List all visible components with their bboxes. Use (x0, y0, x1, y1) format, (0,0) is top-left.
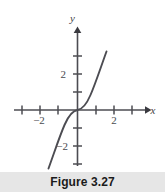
x-tick-label-minus2: −2 (33, 114, 45, 126)
y-tick-label-2: 2 (61, 68, 67, 80)
y-axis-label: y (69, 12, 75, 24)
y-tick-label-minus2: −2 (56, 140, 68, 152)
cubic-graph-plot: x y −2 2 2 −2 (0, 0, 165, 172)
graph-svg: x y −2 2 2 −2 (0, 0, 165, 172)
y-axis-arrow-icon (74, 27, 82, 34)
figure-caption-text: Figure 3.27 (50, 175, 114, 189)
figure-caption-bar: Figure 3.27 (0, 172, 165, 192)
x-axis-label: x (150, 104, 156, 116)
figure-container: x y −2 2 2 −2 Figure 3.27 (0, 0, 165, 192)
x-tick-label-2: 2 (111, 114, 117, 126)
